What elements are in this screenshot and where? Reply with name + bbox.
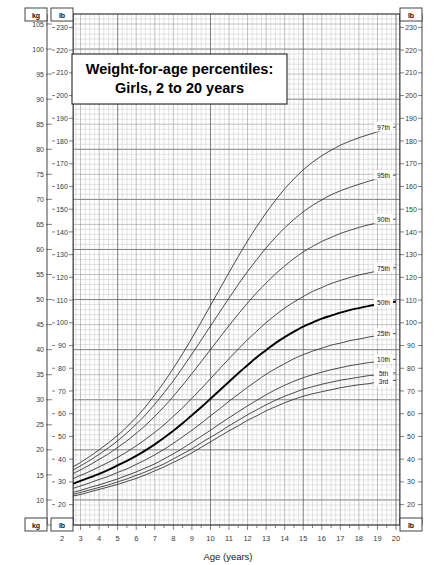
y-axis-lb-tick-label-right: 40 (407, 456, 415, 463)
x-axis-tick-label: 18 (355, 534, 363, 543)
y-axis-lb-tick-label-right: 60 (407, 410, 415, 417)
top-left-lb-label: lb (59, 12, 65, 19)
y-axis-lb-tick-label-right: 50 (407, 433, 415, 440)
y-axis-lb-tick-label-right: 180 (405, 138, 417, 145)
percentile-label-text: 90th (377, 216, 390, 223)
y-axis-lb-tick-label-right: 170 (405, 160, 417, 167)
percentile-label-10th: 10th (374, 354, 393, 364)
percentile-label-text: 75th (377, 265, 390, 272)
bottom-right-lb-label: lb (408, 522, 414, 529)
y-axis-lb-tick-label-right: 220 (405, 47, 417, 54)
growth-chart: 5101520253035404550556065707580859095100… (0, 0, 436, 565)
x-axis-tick-label: 10 (206, 534, 214, 543)
y-axis-lb-tick-label-left: 40 (58, 456, 66, 463)
y-axis-lb-tick-label-right: 20 (407, 501, 415, 508)
y-axis-lb-tick-label-left: 110 (56, 297, 67, 304)
percentile-label-text: 95th (377, 172, 390, 179)
page-title: Weight-for-age percentiles: (86, 61, 273, 77)
percentile-label-95th: 95th (374, 170, 393, 180)
percentile-label-text: 25th (377, 330, 390, 337)
y-axis-lb-tick-label-right: 200 (405, 92, 417, 99)
y-axis-lb-tick-label-right: 230 (405, 24, 417, 31)
chart-title-box: Weight-for-age percentiles: Girls, 2 to … (72, 54, 287, 104)
y-axis-kg-tick-label: 70 (36, 196, 44, 203)
chart-canvas: 5101520253035404550556065707580859095100… (0, 0, 436, 565)
y-axis-lb-tick-label-right: 30 (407, 478, 415, 485)
y-axis-lb-tick-label-right: 210 (405, 69, 417, 76)
y-axis-kg-tick-label: 60 (36, 246, 44, 253)
y-axis-lb-tick-label-left: 140 (56, 229, 68, 236)
y-axis-lb-tick-label-left: 20 (58, 501, 66, 508)
y-axis-kg-tick-label: 85 (36, 121, 44, 128)
y-axis-kg-tick-label: 35 (36, 371, 44, 378)
x-axis-tick-label: 3 (78, 534, 82, 543)
y-axis-lb-tick-label-left: 200 (56, 92, 68, 99)
y-axis-lb-tick-label-left: 70 (58, 388, 66, 395)
percentile-label-50th: 50th (374, 297, 393, 307)
percentile-label-text: 10th (377, 356, 390, 363)
percentile-label-90th: 90th (374, 214, 393, 224)
y-axis-kg-tick-label: 95 (36, 71, 44, 78)
percentile-label-25th: 25th (374, 328, 393, 338)
y-axis-kg-tick-label: 40 (36, 346, 44, 353)
y-axis-lb-tick-label-right: 130 (405, 251, 417, 258)
y-axis-lb-tick-label-left: 80 (58, 365, 66, 372)
y-axis-lb-tick-label-right: 160 (405, 183, 417, 190)
y-axis-kg-tick-label: 90 (36, 96, 44, 103)
top-right-lb-label: lb (408, 12, 414, 19)
y-axis-lb-tick-label-left: 60 (58, 410, 66, 417)
x-axis-tick-label: 20 (392, 534, 400, 543)
percentile-label-97th: 97th (374, 122, 393, 132)
x-axis-tick-label: 16 (318, 534, 326, 543)
x-axis-tick-label: 5 (116, 534, 120, 543)
y-axis-kg-tick-label: 45 (36, 321, 44, 328)
x-axis-tick-label: 15 (299, 534, 307, 543)
top-left-kg-label: kg (32, 12, 40, 20)
y-axis-lb-tick-label-left: 220 (56, 47, 68, 54)
x-axis-tick-label: 13 (262, 534, 270, 543)
y-axis-lb-tick-label-left: 50 (58, 433, 66, 440)
percentile-label-text: 50th (377, 299, 390, 306)
y-axis-kg-tick-label: 25 (36, 421, 44, 428)
percentile-labels: 97th95th90th75th50th25th10th5th3rd (374, 122, 393, 386)
y-axis-lb-tick-label-left: 170 (56, 160, 68, 167)
x-axis-tick-label: 14 (280, 534, 288, 543)
y-axis-lb-tick-label-right: 150 (405, 206, 417, 213)
y-axis-lb-tick-label-left: 30 (58, 478, 66, 485)
x-axis-tick-label: 17 (336, 534, 344, 543)
x-axis-tick-label: 6 (134, 534, 138, 543)
percentile-label-3rd: 3rd (374, 376, 393, 386)
page-subtitle: Girls, 2 to 20 years (115, 80, 244, 96)
x-axis-ticks: 234567891011121314151617181920 (60, 525, 400, 543)
x-axis-tick-label: 9 (190, 534, 194, 543)
y-axis-lb-tick-label-right: 190 (405, 115, 417, 122)
y-axis-lb-tick-label-right: 140 (405, 229, 417, 236)
percentile-label-text: 97th (377, 124, 390, 131)
x-axis-title: Age (years) (203, 551, 252, 562)
y-axis-lb-tick-label-left: 180 (56, 138, 68, 145)
y-axis-kg-tick-label: 65 (36, 221, 44, 228)
y-axis-lb-tick-label-left: 90 (58, 342, 66, 349)
bottom-left-kg-label: kg (32, 522, 40, 530)
y-axis-lb-tick-label-left: 150 (56, 206, 68, 213)
y-axis-kg-tick-label: 50 (36, 296, 44, 303)
y-axis-lb-tick-label-left: 230 (56, 24, 68, 31)
y-axis-kg-tick-label: 20 (36, 446, 44, 453)
y-axis-lb-tick-label-right: 90 (407, 342, 415, 349)
y-axis-lb-tick-label-left: 190 (56, 115, 68, 122)
y-axis-kg-tick-label: 100 (32, 46, 44, 53)
y-axis-lb-tick-label-right: 110 (405, 297, 416, 304)
y-axis-lb-tick-label-right: 80 (407, 365, 415, 372)
y-axis-kg-tick-label: 105 (32, 21, 44, 28)
y-axis-kg-tick-label: 15 (36, 472, 44, 479)
y-axis-kg-tick-label: 80 (36, 146, 44, 153)
y-axis-lb-tick-label-left: 130 (56, 251, 68, 258)
y-axis-lb-tick-label-left: 100 (56, 319, 68, 326)
bottom-left-lb-label: lb (59, 522, 65, 529)
percentile-label-text: 5th (379, 370, 388, 377)
x-axis-tick-label: 11 (225, 534, 233, 543)
x-axis-tick-label: 7 (153, 534, 157, 543)
percentile-label-text: 3rd (379, 378, 389, 385)
y-axis-kg-tick-label: 30 (36, 396, 44, 403)
x-axis-tick-label: 12 (243, 534, 251, 543)
